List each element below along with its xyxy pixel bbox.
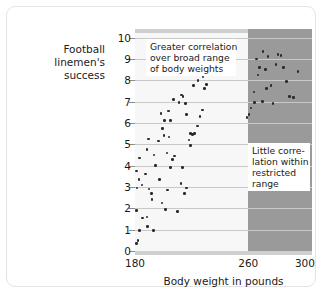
scatter-point [141, 217, 144, 220]
scatter-point [163, 134, 166, 137]
x-axis-title: Body weight in pounds [135, 275, 312, 287]
scatter-point [280, 54, 283, 57]
scatter-point [166, 189, 169, 192]
scatter-point [275, 63, 278, 66]
scatter-point [148, 188, 151, 191]
scatter-point [160, 112, 163, 115]
y-tick-label: 4 [109, 160, 131, 171]
scatter-point [161, 127, 164, 130]
scatter-point [282, 66, 285, 69]
scatter-point [182, 95, 185, 98]
y-tick-label: 6 [109, 118, 131, 129]
gridline [135, 208, 312, 209]
scatter-point [189, 144, 192, 147]
y-tick-label: 3 [109, 182, 131, 193]
scatter-point [173, 155, 176, 158]
annotation-restricted-range: Little corre- lation within restricted r… [248, 143, 310, 191]
scatter-point [189, 132, 192, 135]
x-axis-line [135, 251, 312, 255]
annotation-restricted-line-4: range [252, 178, 306, 189]
scatter-point [248, 113, 251, 116]
scatter-point [203, 87, 206, 90]
annotation-restricted-line-3: restricted [252, 167, 306, 178]
scatter-point [261, 100, 264, 103]
scatter-point [246, 116, 249, 119]
x-axis-tick-labels: 180260300 [135, 258, 312, 272]
scatter-point [146, 225, 149, 228]
annotation-broad-line-1: Greater correlation [150, 41, 232, 52]
scatter-point [292, 96, 295, 99]
scatter-point [157, 140, 160, 143]
scatter-point [167, 110, 170, 113]
scatter-point [199, 115, 202, 118]
y-tick-label: 1 [109, 224, 131, 235]
scatter-point [166, 152, 169, 155]
x-tick-label: 180 [125, 258, 145, 269]
y-axis-title-line-2: success [64, 69, 105, 81]
x-tick-label: 300 [295, 258, 315, 269]
scatter-point [138, 157, 141, 160]
scatter-point [253, 101, 256, 104]
scatter-point [138, 229, 141, 232]
chart-card: Football linemen's success 012345678910 … [6, 6, 316, 287]
scatter-point [172, 98, 175, 101]
scatter-point [152, 229, 155, 232]
scatter-point [161, 202, 164, 205]
restricted-range-region [248, 29, 312, 251]
scatter-point [185, 113, 188, 116]
scatter-point [169, 166, 172, 169]
gridline [135, 230, 312, 231]
scatter-point [144, 173, 147, 176]
gridline [135, 102, 312, 103]
y-tick-label: 7 [109, 96, 131, 107]
scatter-point [178, 101, 181, 104]
scatter-point [137, 239, 140, 242]
scatter-point [201, 109, 204, 112]
scatter-point [151, 198, 154, 201]
scatter-point [188, 139, 191, 142]
scatter-point [205, 83, 208, 86]
scatter-point [164, 208, 167, 211]
y-axis-tick-labels: 012345678910 [107, 29, 131, 251]
y-tick-label: 8 [109, 75, 131, 86]
y-tick-label: 10 [109, 32, 131, 43]
scatter-point [270, 84, 273, 87]
scatter-point [185, 187, 188, 190]
scatter-point [163, 119, 166, 122]
y-axis-title: Football linemen's success [21, 43, 105, 82]
scatter-point [169, 119, 172, 122]
scatter-point [158, 178, 161, 181]
scatter-point [264, 68, 267, 71]
scatter-point [202, 76, 205, 79]
scatter-point [258, 66, 261, 69]
scatter-point [285, 80, 288, 83]
scatter-point [176, 210, 179, 213]
scatter-point [192, 84, 195, 87]
y-tick-label: 9 [109, 54, 131, 65]
annotation-broad-range: Greater correlation over broad range of … [146, 39, 236, 76]
annotation-broad-line-2: over broad range [150, 52, 232, 63]
scatter-point [146, 148, 149, 151]
scatter-point [153, 154, 156, 157]
scatter-point [288, 95, 291, 98]
annotation-broad-line-3: of body weights [150, 63, 232, 74]
y-tick-label: 5 [109, 139, 131, 150]
scatter-point [154, 164, 157, 167]
scatter-point [196, 125, 199, 128]
scatter-point [183, 192, 186, 195]
scatter-point [147, 138, 150, 141]
scatter-point [141, 184, 144, 187]
x-tick-label: 260 [238, 258, 258, 269]
annotation-restricted-line-2: lation within [252, 156, 306, 167]
scatter-point [193, 132, 196, 135]
annotation-restricted-line-1: Little corre- [252, 145, 306, 156]
scatter-point [297, 70, 300, 73]
scatter-point [197, 79, 200, 82]
scatter-point [138, 178, 141, 181]
y-tick-label: 0 [109, 246, 131, 257]
scatter-point [171, 158, 174, 161]
scatter-point [150, 192, 153, 195]
scatter-point [180, 182, 183, 185]
scatter-point [181, 166, 184, 169]
gridline [135, 123, 312, 124]
